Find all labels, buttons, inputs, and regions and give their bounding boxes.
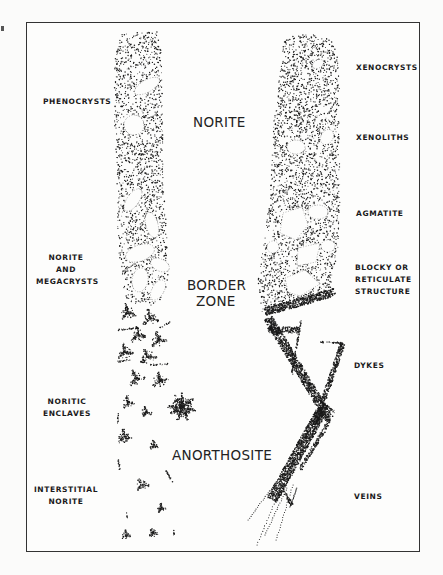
stipple-dot (285, 82, 286, 83)
stipple-dot (293, 52, 294, 53)
stipple-dot (284, 466, 285, 467)
stipple-dot (133, 375, 134, 376)
stipple-dot (130, 146, 131, 147)
stipple-dot (334, 158, 335, 159)
stipple-dot (285, 112, 287, 114)
stipple-dot (280, 481, 281, 482)
stipple-dot (152, 32, 153, 33)
stipple-dot (321, 433, 322, 434)
stipple-dot (324, 84, 325, 85)
stipple-dot (145, 409, 146, 410)
stipple-dot (339, 166, 340, 167)
stipple-dot (176, 404, 177, 405)
stipple-dot (119, 147, 120, 148)
stipple-dot (282, 331, 284, 333)
stipple-dot (125, 52, 126, 53)
stipple-dot (139, 42, 140, 43)
stipple-dot (310, 43, 311, 44)
stipple-dot (121, 139, 122, 140)
stipple-dot (323, 41, 324, 42)
stipple-dot (155, 270, 156, 271)
stipple-dot (123, 103, 124, 104)
stipple-dot (263, 297, 265, 299)
stipple-dot (320, 183, 321, 184)
stipple-dot (123, 195, 124, 196)
stipple-dot (320, 54, 321, 55)
stipple-dot (320, 124, 321, 125)
stipple-dot (310, 154, 311, 155)
stipple-dot (116, 93, 118, 95)
stipple-dot (288, 272, 289, 273)
stipple-dot (125, 440, 127, 442)
stipple-dot (305, 139, 306, 140)
stipple-dot (144, 39, 145, 40)
stipple-dot (123, 270, 125, 272)
stipple-dot (304, 302, 305, 303)
stipple-dot (327, 49, 328, 50)
stipple-dot (330, 174, 331, 175)
stipple-dot (144, 362, 145, 363)
stipple-dot (283, 487, 284, 488)
stipple-dot (127, 347, 128, 348)
stipple-dot (287, 345, 288, 346)
stipple-dot (305, 153, 306, 154)
stipple-dot (303, 197, 304, 198)
stipple-dot (327, 393, 328, 394)
stipple-dot (134, 244, 135, 245)
stipple-dot (310, 162, 311, 163)
stipple-dot (118, 177, 119, 178)
stipple-dot (291, 349, 292, 350)
stipple-dot (118, 46, 119, 47)
stipple-dot (281, 162, 282, 163)
stipple-dot (333, 373, 334, 374)
stipple-dot (158, 198, 159, 199)
stipple-dot (154, 51, 155, 52)
stipple-dot (331, 106, 332, 107)
stipple-dot (282, 519, 283, 520)
stipple-dot (322, 341, 323, 342)
stipple-dot (130, 179, 131, 180)
stipple-dot (158, 189, 160, 191)
stipple-dot (283, 199, 284, 200)
stipple-dot (116, 88, 117, 89)
stipple-dot (139, 339, 140, 340)
stipple-dot (325, 218, 326, 219)
stipple-dot (311, 291, 313, 293)
stipple-dot (310, 100, 311, 101)
stipple-dot (295, 459, 296, 460)
stipple-dot (311, 448, 312, 449)
stipple-dot (148, 158, 150, 160)
stipple-dot (311, 446, 312, 447)
stipple-dot (333, 110, 334, 111)
stipple-dot (293, 43, 294, 44)
stipple-dot (276, 140, 277, 141)
stipple-dot (163, 379, 164, 380)
stipple-dot (280, 307, 281, 308)
stipple-dot (286, 123, 287, 124)
stipple-dot (152, 104, 153, 105)
stipple-dot (145, 116, 146, 117)
stipple-dot (314, 219, 315, 220)
stipple-dot (327, 113, 328, 114)
stipple-dot (139, 71, 140, 72)
stipple-dot (331, 144, 332, 145)
stipple-dot (330, 98, 331, 99)
stipple-dot (294, 363, 295, 364)
stipple-dot (155, 88, 156, 89)
stipple-dot (130, 536, 131, 537)
stipple-dot (274, 496, 275, 497)
stipple-dot (120, 46, 121, 47)
stipple-dot (333, 210, 334, 211)
stipple-dot (149, 534, 150, 535)
stipple-dot (310, 221, 311, 222)
stipple-dot (324, 403, 325, 404)
stipple-dot (331, 116, 332, 117)
stipple-dot (275, 269, 276, 270)
stipple-dot (339, 88, 340, 89)
stipple-dot (319, 94, 320, 95)
stipple-dot (186, 399, 187, 400)
stipple-dot (291, 111, 293, 113)
stipple-dot (313, 72, 315, 74)
stipple-dot (286, 143, 288, 145)
stipple-dot (323, 126, 324, 127)
